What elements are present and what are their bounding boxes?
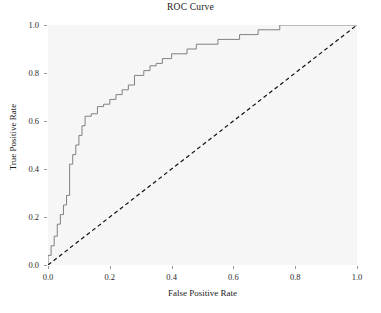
y-axis-tick-mark: [44, 265, 47, 266]
x-axis-tick-mark: [110, 266, 111, 269]
y-axis-tick-label: 1.0: [0, 20, 39, 30]
plot-panel: [48, 25, 357, 265]
x-axis-tick-label: 0.2: [104, 272, 115, 282]
x-axis-tick-label: 0.8: [290, 272, 301, 282]
y-axis-tick-label: 0.8: [0, 68, 39, 78]
y-axis-tick-mark: [44, 73, 47, 74]
x-axis-tick-label: 0.6: [228, 272, 239, 282]
x-axis-tick-mark: [357, 266, 358, 269]
chart-title: ROC Curve: [0, 2, 381, 12]
chance-reference-line: [48, 25, 357, 265]
roc-curve-figure: ROC Curve False Positive Rate True Posit…: [0, 0, 381, 313]
y-axis-tick-label: 0.4: [0, 164, 39, 174]
y-axis-tick-label: 0.6: [0, 116, 39, 126]
y-axis-tick-mark: [44, 169, 47, 170]
x-axis-tick-mark: [233, 266, 234, 269]
x-axis-tick-mark: [295, 266, 296, 269]
x-axis-title: False Positive Rate: [48, 288, 357, 298]
x-axis-tick-label: 0.0: [43, 272, 54, 282]
y-axis-tick-mark: [44, 121, 47, 122]
x-axis-tick-label: 0.4: [166, 272, 177, 282]
y-axis-tick-label: 0.0: [0, 260, 39, 270]
y-axis-title: True Positive Rate: [8, 77, 18, 197]
y-axis-tick-label: 0.2: [0, 212, 39, 222]
x-axis-tick-label: 1.0: [352, 272, 363, 282]
plot-canvas: [48, 25, 357, 265]
x-axis-tick-mark: [172, 266, 173, 269]
y-axis-tick-mark: [44, 217, 47, 218]
x-axis-tick-mark: [48, 266, 49, 269]
y-axis-tick-mark: [44, 25, 47, 26]
